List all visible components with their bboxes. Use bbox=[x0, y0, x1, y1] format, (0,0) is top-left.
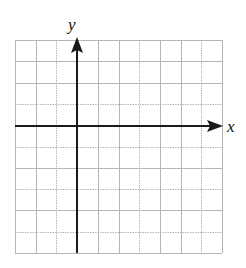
coordinate-plane: x y bbox=[0, 0, 246, 268]
y-axis-label: y bbox=[66, 15, 76, 34]
grid bbox=[15, 40, 223, 254]
x-axis-label: x bbox=[226, 117, 235, 136]
